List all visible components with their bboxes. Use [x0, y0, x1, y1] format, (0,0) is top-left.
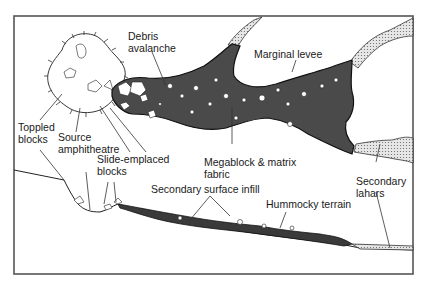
label-marginal-levee: Marginal levee	[254, 48, 322, 60]
lahar-profile	[352, 244, 413, 250]
label-secondary-surface-infill: Secondary surface infill	[151, 183, 260, 195]
lahar-top-left	[228, 17, 262, 46]
label-toppled-blocks: Toppled blocks	[18, 121, 58, 145]
label-source-amphitheatre: Source amphitheatre	[58, 131, 119, 155]
label-secondary-lahars: Secondary lahars	[356, 175, 409, 199]
cross-section-profile	[14, 170, 413, 250]
label-debris-avalanche: Debris avalanche	[128, 30, 176, 54]
avalanche-deposit-profile	[118, 204, 352, 246]
debris-avalanche-deposit	[112, 44, 354, 154]
label-slide-emplaced-blocks: Slide-emplaced blocks	[97, 153, 172, 177]
label-hummocky-terrain: Hummocky terrain	[266, 198, 351, 210]
lahar-top-right	[350, 18, 413, 68]
ground-surface	[14, 170, 413, 250]
debris-avalanche-diagram: Debris avalanche Marginal levee Toppled …	[0, 0, 429, 283]
lahar-lower-right	[354, 137, 413, 163]
label-megablock-matrix-fabric: Megablock & matrix fabric	[204, 156, 299, 180]
